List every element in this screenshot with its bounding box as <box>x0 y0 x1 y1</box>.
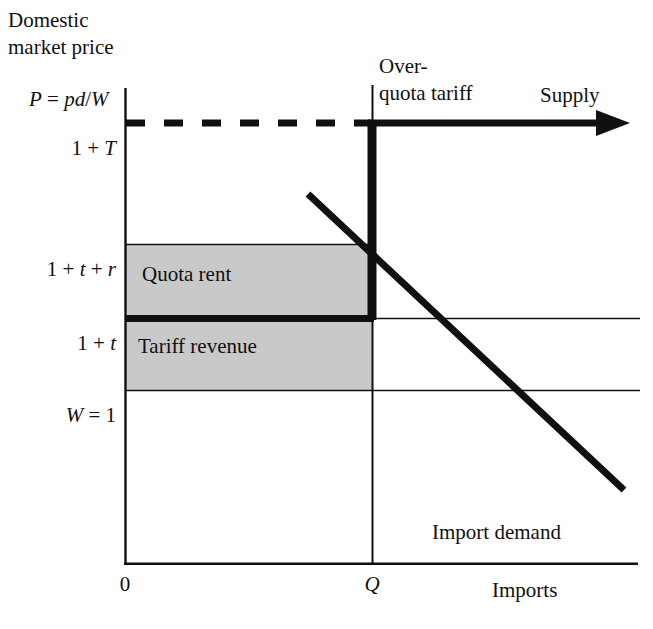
y-tick-1-plus-T-variable: T <box>104 136 116 160</box>
y-tick-w-rest: = 1 <box>83 403 116 427</box>
y-tick-1-plus-t-plus-r-prefix: 1 + <box>47 257 80 281</box>
tariff-rate-quota-diagram: Domestic market price P = pd/W 1 + T 1 +… <box>0 0 653 629</box>
y-tick-1-plus-t-prefix: 1 + <box>77 331 110 355</box>
y-axis-title-formula-pd: pd <box>64 87 85 111</box>
y-tick-label-1-plus-T: 1 + T <box>0 111 116 185</box>
y-tick-1-plus-t-plus-r-r: r <box>108 257 116 281</box>
x-tick-label-origin: 0 <box>112 572 138 597</box>
annotation-over-quota-tariff-line-1: Over- <box>379 54 428 79</box>
y-axis-title-line-1: Domestic <box>8 8 88 33</box>
region-label-tariff-revenue: Tariff revenue <box>138 334 257 359</box>
y-tick-label-w-equals-1: W = 1 <box>0 378 116 452</box>
x-tick-label-Q: Q <box>359 572 385 597</box>
y-tick-label-1-plus-t: 1 + t <box>0 306 116 380</box>
y-axis-title-formula-w: W <box>91 87 109 111</box>
y-tick-1-plus-t-t: t <box>110 331 116 355</box>
y-tick-1-plus-t-plus-r-mid: + <box>85 257 107 281</box>
supply-curve-arrowhead <box>596 110 630 136</box>
x-axis-title: Imports <box>492 578 557 603</box>
y-axis-title-line-2: market price <box>8 35 114 60</box>
y-axis-title-formula-p: P <box>29 87 42 111</box>
annotation-import-demand: Import demand <box>432 520 561 545</box>
annotation-over-quota-tariff-line-2: quota tariff <box>379 81 473 106</box>
annotation-supply: Supply <box>540 83 600 108</box>
y-tick-1-plus-T-prefix: 1 + <box>71 136 104 160</box>
y-tick-w-variable: W <box>66 403 84 427</box>
y-tick-label-1-plus-t-plus-r: 1 + t + r <box>0 232 116 306</box>
region-label-quota-rent: Quota rent <box>142 262 231 287</box>
y-axis-title-formula-equals: = <box>42 87 64 111</box>
